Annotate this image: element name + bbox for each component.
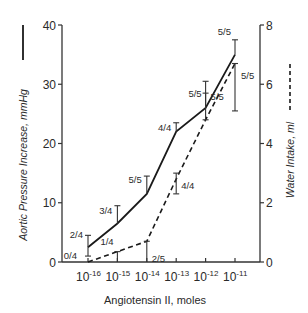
pressure-annotation: 5/5 — [218, 26, 231, 37]
pressure-annotation: 2/4 — [70, 229, 83, 240]
water-annotation: 4/4 — [181, 180, 194, 191]
left-tick-label: 30 — [43, 78, 57, 92]
pressure-annotation: 4/4 — [158, 122, 171, 133]
x-tick-exponent: -13 — [178, 269, 190, 278]
x-tick-label: 10-15 — [105, 269, 130, 284]
x-tick-label: 10-16 — [76, 269, 101, 284]
left-tick-label: 10 — [43, 196, 57, 210]
x-tick-label: 10-12 — [194, 269, 219, 284]
x-tick-label: 10-13 — [164, 269, 189, 284]
x-tick-label: 10-11 — [223, 269, 248, 284]
x-tick-base: 10 — [194, 270, 208, 284]
right-tick-label: 2 — [266, 196, 273, 210]
x-tick-exponent: -11 — [236, 269, 248, 278]
marks — [85, 40, 238, 262]
right-tick-label: 4 — [266, 137, 273, 151]
axes — [58, 25, 264, 262]
left-tick-label: 20 — [43, 137, 57, 151]
water-annotation: 1/4 — [100, 236, 113, 247]
left-axis-label: Aortic Pressure Increase, mmHg — [17, 89, 29, 242]
pressure-line — [88, 55, 235, 248]
pressure-annotation: 5/5 — [188, 88, 201, 99]
x-tick-base: 10 — [135, 270, 149, 284]
water-annotation: 5/5 — [211, 91, 224, 102]
water-annotation: 0/4 — [64, 250, 77, 261]
left-tick-label: 40 — [43, 19, 57, 33]
right-tick-label: 6 — [266, 78, 273, 92]
water-annotation: 2/5 — [152, 253, 165, 264]
left-tick-label: 0 — [49, 256, 56, 270]
x-tick-label: 10-14 — [135, 269, 160, 284]
chart: 0102030400246810-1610-1510-1410-1310-121… — [0, 0, 308, 313]
pressure-annotation: 5/5 — [129, 174, 142, 185]
right-axis-label: Water Intake, ml — [284, 121, 296, 198]
x-axis-label: Angiotensin II, moles — [104, 294, 207, 306]
water-annotation: 5/5 — [241, 70, 254, 81]
x-tick-exponent: -16 — [89, 269, 101, 278]
x-tick-exponent: -15 — [119, 269, 131, 278]
x-tick-base: 10 — [223, 270, 237, 284]
x-tick-base: 10 — [76, 270, 90, 284]
labels: 0102030400246810-1610-1510-1410-1310-121… — [17, 19, 296, 307]
x-tick-exponent: -14 — [148, 269, 160, 278]
x-tick-exponent: -12 — [207, 269, 219, 278]
right-tick-label: 8 — [266, 19, 273, 33]
x-tick-base: 10 — [105, 270, 119, 284]
x-tick-base: 10 — [164, 270, 178, 284]
pressure-annotation: 3/4 — [99, 205, 112, 216]
right-tick-label: 0 — [266, 256, 273, 270]
